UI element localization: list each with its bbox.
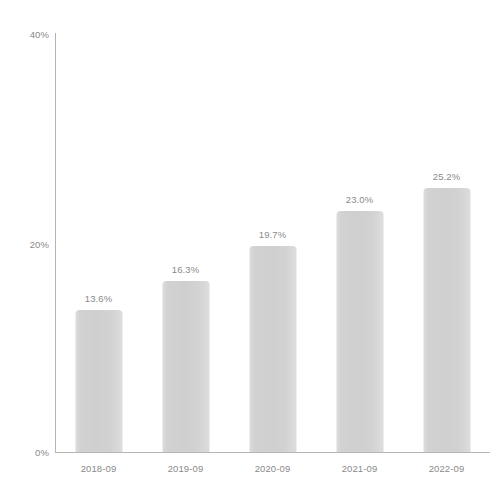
y-axis-tick-label: 0% [5,448,49,458]
bar-group[interactable]: 19.7% 2020-09 [229,33,316,452]
y-axis-tick-label: 40% [5,30,49,40]
bar-group[interactable]: 16.3% 2019-09 [142,33,229,452]
x-axis-tick-label: 2022-09 [403,463,490,474]
y-axis-tick-0: 0% [0,448,49,458]
bar-group[interactable]: 23.0% 2021-09 [316,33,403,452]
bar[interactable] [423,188,470,452]
x-axis-tick-label: 2018-09 [55,463,142,474]
bar[interactable] [75,310,122,452]
y-axis-tick-40: 40% [0,30,49,40]
bar-value-label: 13.6% [85,294,112,304]
bar-value-label: 16.3% [172,265,199,275]
bar[interactable] [162,281,209,452]
y-axis-tick-label: 20% [5,240,49,250]
y-axis-tick-20: 20% [0,240,49,250]
x-axis-line [55,452,490,453]
bar-group[interactable]: 25.2% 2022-09 [403,33,490,452]
bar-chart: 40% 20% 0% 13.6% 2018-09 16.3% 2019-09 1… [0,0,501,493]
x-axis-tick-label: 2019-09 [142,463,229,474]
x-axis-tick-label: 2020-09 [229,463,316,474]
bars-layer: 13.6% 2018-09 16.3% 2019-09 19.7% 2020-0… [55,33,490,452]
bar-value-label: 23.0% [346,195,373,205]
x-axis-tick-label: 2021-09 [316,463,403,474]
bar[interactable] [249,246,296,452]
bar-group[interactable]: 13.6% 2018-09 [55,33,142,452]
bar-value-label: 25.2% [433,172,460,182]
bar[interactable] [336,211,383,452]
bar-value-label: 19.7% [259,230,286,240]
